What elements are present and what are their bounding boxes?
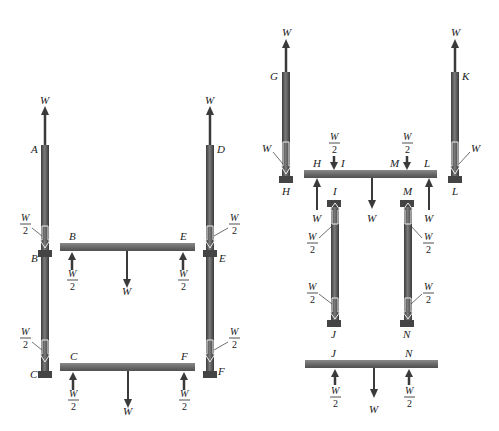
point-label-f: F bbox=[217, 365, 225, 377]
point-label-j: J bbox=[331, 328, 337, 340]
svg-text:W: W bbox=[230, 212, 240, 223]
arrowhead-icon bbox=[179, 252, 187, 260]
svg-text:W: W bbox=[308, 231, 318, 242]
arrowhead-icon bbox=[69, 372, 77, 380]
point-label-b: B bbox=[69, 230, 76, 242]
rod-kl bbox=[448, 39, 462, 183]
svg-text:2: 2 bbox=[23, 339, 28, 350]
rod-collar bbox=[203, 250, 217, 257]
point-label-n: N bbox=[404, 347, 413, 359]
point-label-c: C bbox=[70, 350, 78, 362]
svg-text:2: 2 bbox=[426, 294, 431, 305]
load-label: W bbox=[367, 212, 377, 224]
reaction-label: W bbox=[424, 212, 434, 224]
fraction-label: W 2 bbox=[214, 212, 240, 236]
rod-collar bbox=[203, 371, 217, 378]
svg-text:2: 2 bbox=[333, 398, 338, 409]
svg-text:W: W bbox=[331, 385, 341, 396]
svg-text:W: W bbox=[69, 388, 79, 399]
svg-text:W: W bbox=[405, 385, 415, 396]
arrowhead-icon bbox=[403, 162, 411, 170]
rod-ij bbox=[327, 200, 341, 327]
diagram-canvas: W A B C W 2 W 2 W D E F W 2 W 2 bbox=[0, 0, 499, 431]
fraction-label: W 2 bbox=[330, 385, 341, 409]
svg-text:2: 2 bbox=[23, 225, 28, 236]
arrowhead-icon bbox=[370, 389, 378, 398]
svg-text:2: 2 bbox=[70, 281, 75, 292]
svg-text:W: W bbox=[68, 268, 78, 279]
reaction-label: W bbox=[312, 212, 322, 224]
force-label: W bbox=[40, 94, 50, 106]
point-label-f: F bbox=[180, 350, 188, 362]
svg-text:2: 2 bbox=[310, 294, 315, 305]
svg-text:W: W bbox=[21, 212, 31, 223]
fraction-label: W 2 bbox=[307, 226, 332, 255]
point-label-g: G bbox=[270, 70, 278, 82]
point-label-l: L bbox=[423, 157, 430, 169]
arrowhead-icon bbox=[180, 372, 188, 380]
svg-text:W: W bbox=[330, 131, 340, 142]
fraction-label: W 2 bbox=[402, 131, 413, 155]
svg-text:W: W bbox=[403, 131, 413, 142]
arrowhead-icon bbox=[451, 39, 459, 48]
arrowhead-icon bbox=[368, 200, 376, 209]
bar-hl bbox=[304, 156, 437, 210]
point-label-i: I bbox=[332, 185, 338, 197]
force-label: W bbox=[451, 26, 461, 38]
fraction-label: W 2 bbox=[329, 131, 340, 155]
point-label-n: N bbox=[402, 328, 411, 340]
point-label-i: I bbox=[340, 157, 346, 169]
fraction-label: W 2 bbox=[67, 268, 78, 292]
fraction-label: W 2 bbox=[20, 326, 42, 350]
point-label-e: E bbox=[218, 252, 226, 264]
fraction-label: W 2 bbox=[411, 226, 434, 255]
point-label-h: H bbox=[312, 157, 322, 169]
arrowhead-icon bbox=[405, 369, 413, 377]
svg-text:2: 2 bbox=[426, 244, 431, 255]
rod-collar bbox=[279, 176, 293, 183]
fraction-label: W 2 bbox=[404, 385, 415, 409]
svg-text:2: 2 bbox=[232, 339, 237, 350]
svg-text:W: W bbox=[308, 281, 318, 292]
svg-text:2: 2 bbox=[405, 144, 410, 155]
arrowhead-icon bbox=[313, 178, 321, 187]
rod-mn bbox=[400, 200, 414, 327]
fraction-label: W 2 bbox=[179, 388, 190, 412]
free-body-diagram: W A B C W 2 W 2 W D E F W 2 W 2 bbox=[0, 0, 499, 431]
leader-line bbox=[273, 152, 283, 164]
point-label-a: A bbox=[30, 143, 38, 155]
point-label-m: M bbox=[389, 157, 400, 169]
svg-text:W: W bbox=[424, 281, 434, 292]
force-label: W bbox=[262, 142, 272, 154]
svg-text:W: W bbox=[21, 326, 31, 337]
bar-be bbox=[60, 243, 195, 288]
svg-text:2: 2 bbox=[310, 244, 315, 255]
svg-text:2: 2 bbox=[182, 401, 187, 412]
svg-text:2: 2 bbox=[407, 398, 412, 409]
fraction-label: W 2 bbox=[411, 281, 434, 305]
arrowhead-icon bbox=[282, 39, 290, 48]
fraction-label: W 2 bbox=[178, 268, 189, 292]
leader-line bbox=[459, 152, 470, 164]
arrowhead-icon bbox=[68, 252, 76, 260]
rod-collar bbox=[327, 200, 341, 207]
arrowhead-icon bbox=[330, 162, 338, 170]
load-label: W bbox=[123, 405, 133, 417]
rod-collar bbox=[327, 320, 341, 327]
point-label-l: L bbox=[451, 185, 458, 197]
load-label: W bbox=[122, 285, 132, 297]
point-label-d: D bbox=[216, 143, 225, 155]
bar-cf bbox=[60, 363, 195, 408]
svg-text:2: 2 bbox=[232, 225, 237, 236]
rod-collar bbox=[400, 200, 414, 207]
point-label-j: J bbox=[331, 347, 337, 359]
svg-text:W: W bbox=[179, 268, 189, 279]
rod-collar bbox=[400, 320, 414, 327]
arrowhead-icon bbox=[425, 178, 433, 187]
svg-text:2: 2 bbox=[181, 281, 186, 292]
svg-text:2: 2 bbox=[71, 401, 76, 412]
svg-text:2: 2 bbox=[332, 144, 337, 155]
point-label-h: H bbox=[281, 185, 291, 197]
svg-text:W: W bbox=[424, 231, 434, 242]
rod-ac bbox=[38, 106, 52, 378]
